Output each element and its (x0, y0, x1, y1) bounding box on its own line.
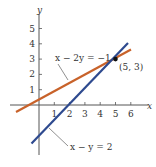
equation-label-2: x − y = 2 (70, 142, 112, 152)
y-tick-label: 4 (29, 39, 35, 49)
intersection-point (113, 57, 118, 62)
equation-label-1: x − 2y = −1 (55, 53, 111, 63)
y-tick-label: 5 (29, 24, 35, 34)
x-tick-label: 3 (82, 109, 88, 119)
leader-line-eq2 (49, 128, 68, 146)
x-tick-label: 2 (67, 109, 73, 119)
graph-canvas: 1 2 3 4 5 6 1 2 3 4 5 x y x − 2y = −1 x … (0, 0, 156, 167)
x-tick-label: 4 (97, 109, 103, 119)
x-tick-label: 6 (128, 109, 134, 119)
intersection-label: (5, 3) (119, 62, 143, 72)
x-axis-label: x (147, 101, 152, 111)
y-tick-label: 2 (29, 69, 35, 79)
y-tick-label: 3 (29, 54, 35, 64)
y-tick-label: 1 (29, 85, 35, 95)
x-tick-label: 5 (113, 109, 119, 119)
leader-line-eq1 (58, 64, 68, 80)
y-axis-label: y (36, 5, 43, 15)
